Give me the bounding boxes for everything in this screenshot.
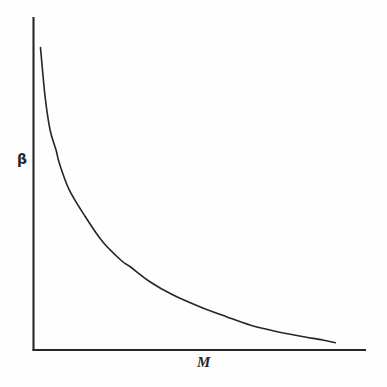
x-axis-label: M bbox=[197, 355, 210, 370]
decay-curve bbox=[40, 48, 335, 343]
figure-canvas: β M bbox=[0, 0, 387, 387]
plot-area bbox=[0, 0, 387, 387]
y-axis-label: β bbox=[17, 152, 27, 166]
